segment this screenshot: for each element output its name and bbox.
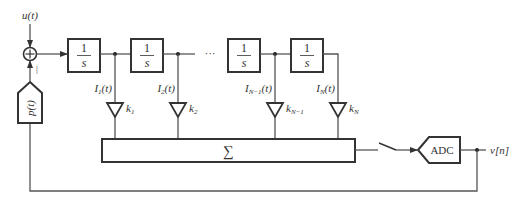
svg-text:1: 1 (304, 41, 310, 55)
integrator-block-3: 1 s (228, 39, 260, 72)
svg-text:1: 1 (81, 41, 87, 55)
state-label-n-1: IN−1(t) (244, 82, 272, 96)
svg-text:p(t): p(t) (24, 100, 37, 117)
gain-label-2: k2 (189, 102, 198, 116)
svg-text:∑: ∑ (223, 143, 234, 160)
gain-triangle-n-1 (267, 103, 283, 117)
state-label-1: I1(t) (93, 82, 112, 96)
block-diagram: u(t) | 1 s 1 s ··· 1 s 1 s (0, 0, 525, 203)
integrator-block-2: 1 s (131, 39, 163, 72)
state-label-2: I2(t) (156, 82, 175, 96)
input-label: u(t) (22, 9, 38, 22)
state-label-n: IN(t) (315, 82, 335, 96)
gain-triangle-1 (107, 103, 123, 117)
svg-text:1: 1 (241, 41, 247, 55)
output-label: v[n] (490, 144, 509, 156)
summer-block: ∑ (102, 139, 355, 162)
svg-text:s: s (242, 56, 247, 70)
summing-junction (24, 48, 37, 61)
feedback-sign: | (36, 64, 38, 74)
gain-label-n-1: kN−1 (286, 102, 304, 116)
gain-label-1: k1 (126, 102, 134, 116)
sampling-switch (379, 143, 417, 150)
integrator-block-1: 1 s (68, 39, 100, 72)
svg-text:1: 1 (144, 41, 150, 55)
gain-triangle-2 (170, 103, 186, 117)
gain-label-n: kN (349, 102, 359, 116)
adc-block: ADC (418, 137, 460, 163)
ellipsis: ··· (205, 47, 216, 59)
svg-text:s: s (305, 56, 310, 70)
svg-text:s: s (145, 56, 150, 70)
integrator-block-4: 1 s (291, 39, 323, 72)
feedback-block: p(t) (18, 82, 42, 123)
wire-4-out (323, 54, 338, 103)
gain-triangle-n (330, 103, 346, 117)
svg-text:ADC: ADC (430, 144, 453, 156)
svg-text:s: s (82, 56, 87, 70)
